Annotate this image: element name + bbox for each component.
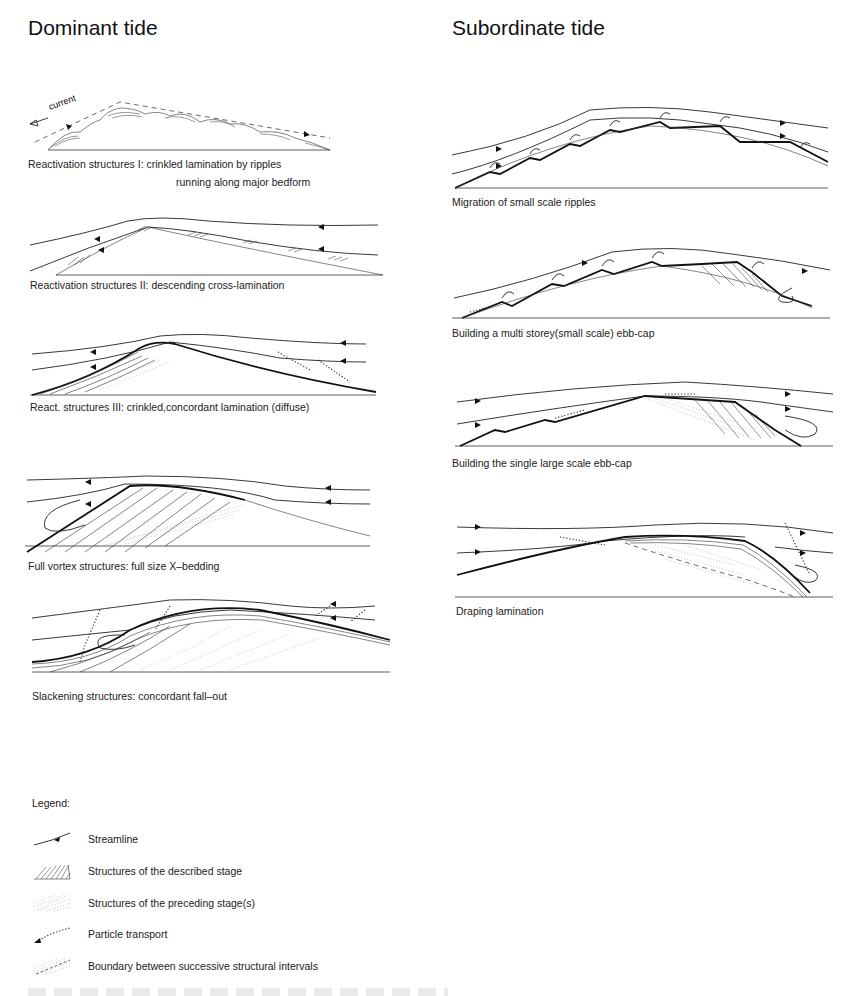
subordinate-tide-title: Subordinate tide [452,16,605,40]
caption-reactivation-2: Reactivation structures II: descending c… [30,279,284,291]
diagram-large-ebb-cap [455,378,835,453]
bedform-sketch [28,205,388,280]
legend-label: Structures of the preceding stage(s) [88,897,255,909]
diagram-reactivation-2 [28,205,388,280]
cropped-caption-fragment [28,988,448,996]
caption-large-ebb-cap: Building the single large scale ebb-cap [452,457,632,469]
boundary-icon [32,956,72,976]
legend-item-boundary: Boundary between successive structural i… [32,956,318,976]
legend-item-particle-transport: Particle transport [32,924,167,944]
caption-reactivation-1-line2: running along major bedform [176,176,310,188]
bedform-sketch [450,100,830,190]
diagram-slackening [30,590,400,680]
caption-draping-lamination: Draping lamination [456,605,544,617]
diagram-ripple-migration [450,100,830,190]
particle-transport-icon [32,924,72,944]
diagram-full-vortex [25,470,385,550]
current-label: current [47,93,77,112]
caption-reactivation-3: React. structures III: crinkled,concorda… [30,401,309,413]
hatched-structure-icon [32,861,72,881]
bedform-sketch [25,470,385,550]
bedform-sketch: current [20,80,340,160]
caption-reactivation-1: Reactivation structures I: crinkled lami… [28,158,281,170]
streamline-icon [32,829,72,849]
bedform-sketch [455,378,835,453]
legend-item-streamline: Streamline [32,829,138,849]
legend-label: Particle transport [88,928,167,940]
diagram-multistorey-ebb-cap [452,238,832,323]
caption-multistorey-ebb-cap: Building a multi storey(small scale) ebb… [452,327,655,339]
bedform-sketch [455,515,835,600]
bedform-sketch [452,238,832,323]
caption-full-vortex: Full vortex structures: full size X–bedd… [28,560,219,572]
legend-item-preceding-stage: Structures of the preceding stage(s) [32,893,255,913]
legend-label: Boundary between successive structural i… [88,960,318,972]
caption-ripple-migration: Migration of small scale ripples [452,196,596,208]
legend-label: Structures of the described stage [88,865,242,877]
diagram-draping-lamination [455,515,835,600]
legend-title: Legend: [32,797,70,809]
diagram-reactivation-3 [30,330,390,400]
bedform-sketch [30,590,400,680]
diagram-reactivation-1: current [20,80,340,160]
stippled-structure-icon [32,893,72,913]
bedform-sketch [30,330,390,400]
caption-slackening: Slackening structures: concordant fall–o… [32,690,227,702]
legend-item-described-stage: Structures of the described stage [32,861,242,881]
legend-label: Streamline [88,833,138,845]
dominant-tide-title: Dominant tide [28,16,158,40]
